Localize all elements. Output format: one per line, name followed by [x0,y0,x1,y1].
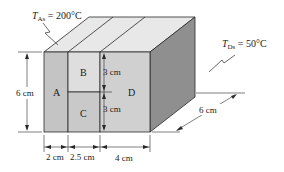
depth-label: 6 cm [199,105,217,115]
temp-left-leader [43,23,58,45]
bc-width-label: 2.5 cm [70,152,95,162]
label-b: B [80,67,87,78]
c-height-label: 3 cm [103,104,121,114]
height-arrow-up [25,53,29,59]
arrow-d-right [143,145,149,149]
temp-right-label: TDs = 50°C [222,38,267,51]
b-height-label: 3 cm [103,67,121,77]
d-width-label: 4 cm [115,153,133,163]
height-label: 6 cm [16,88,34,98]
arrow-bc-right [93,145,99,149]
label-c: C [80,108,87,119]
depth-arrow-back [231,94,237,99]
composite-wall-diagram: A B C D TAs = 200°C TDs = 50°C 6 cm 3 cm… [0,0,284,172]
arrow-d-left [101,145,107,149]
temp-right-leader [209,55,235,72]
arrow-a-left [45,145,51,149]
height-arrow-down [25,125,29,131]
label-a: A [53,87,61,98]
label-d: D [128,87,135,98]
a-width-label: 2 cm [46,152,64,162]
arrow-a-right [61,145,67,149]
arrow-bc-left [69,145,75,149]
temp-left-label: TAs = 200°C [32,10,82,23]
